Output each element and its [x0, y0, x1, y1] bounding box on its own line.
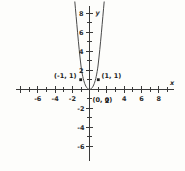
- y-tick-label-neg6: -6: [77, 143, 85, 151]
- y-tick-label-4: 4: [79, 48, 84, 56]
- y-tick-label-8: 8: [79, 10, 84, 18]
- x-tick-label-6: 6: [139, 95, 144, 103]
- graph-screenshot: -6 -4 -2 2 4 6 8 8 6 4 2 -2 -4 -6 x y (-…: [0, 0, 185, 171]
- x-tick-label-neg2: -2: [69, 95, 76, 103]
- point-marker-1-1: [97, 78, 100, 81]
- x-tick-label-neg4: -4: [51, 95, 59, 103]
- annotation-0-0: (0, 0): [93, 96, 113, 104]
- point-marker-neg1-1: [79, 78, 82, 81]
- x-axis-label: x: [169, 79, 175, 87]
- annotation-1-1: (1, 1): [102, 72, 122, 80]
- y-tick-label-2: 2: [79, 67, 84, 75]
- x-tick-label-8: 8: [157, 95, 162, 103]
- y-tick-label-neg2: -2: [77, 105, 84, 113]
- y-tick-label-6: 6: [79, 29, 84, 37]
- y-tick-label-neg4: -4: [77, 124, 85, 132]
- x-tick-label-4: 4: [122, 95, 127, 103]
- x-tick-label-neg6: -6: [34, 95, 42, 103]
- annotation-neg1-1: (-1, 1): [54, 72, 76, 80]
- y-axis-label: y: [96, 9, 101, 17]
- cartesian-plot: -6 -4 -2 2 4 6 8 8 6 4 2 -2 -4 -6 x y (-…: [0, 0, 185, 171]
